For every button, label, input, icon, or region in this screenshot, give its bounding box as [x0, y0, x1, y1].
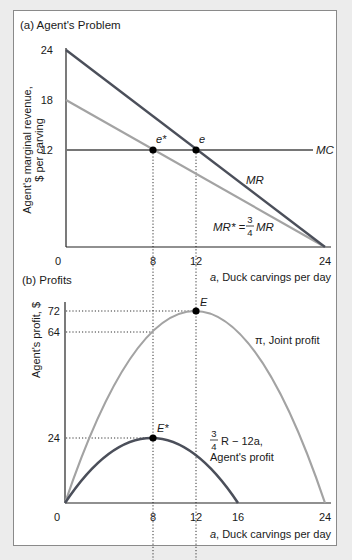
- y-tick-24: 24: [41, 44, 53, 56]
- label-mr-star: MR* = 3 4 MR: [213, 214, 274, 238]
- panel-b-ylabel: Agent's profit, $: [30, 302, 42, 378]
- svg-text:3: 3: [211, 428, 216, 439]
- y-tick-18: 18: [41, 94, 53, 106]
- svg-text:3: 3: [247, 214, 252, 225]
- svg-text:4: 4: [247, 227, 252, 238]
- chart-svg: (a) Agent's Problem Agent's marginal rev…: [0, 0, 352, 560]
- label-mr: MR: [246, 174, 264, 186]
- x-tick-12-b: 12: [190, 511, 202, 523]
- label-agent-profit: 3 4 R − 12a, Agent's profit: [210, 428, 274, 463]
- svg-text:R − 12a,: R − 12a,: [221, 435, 263, 447]
- panel-a-xlabel: a, Duck carvings per day: [210, 271, 332, 283]
- x-tick-8: 8: [150, 255, 156, 267]
- label-e: e: [199, 133, 205, 145]
- x-tick-0: 0: [55, 255, 61, 267]
- panel-b-xlabel: a, Duck carvings per day: [210, 528, 332, 540]
- point-e-star: [149, 146, 156, 153]
- label-e-star: e*: [156, 133, 167, 145]
- y-tick-12: 12: [41, 144, 53, 156]
- panel-b-title: (b) Profits: [22, 274, 72, 286]
- point-e: [192, 146, 199, 153]
- y-tick-64: 64: [48, 326, 60, 338]
- label-E-star: E*: [157, 422, 169, 434]
- svg-text:Agent's profit, $: Agent's profit, $: [30, 302, 42, 378]
- mr-star-line: [66, 100, 325, 247]
- y-tick-24-b: 24: [48, 432, 60, 444]
- point-E-star: [149, 434, 156, 441]
- label-E: E: [200, 296, 208, 308]
- x-tick-0-b: 0: [54, 511, 60, 523]
- x-tick-8-b: 8: [150, 511, 156, 523]
- point-E: [192, 307, 199, 314]
- svg-text:Agent's profit: Agent's profit: [210, 451, 274, 463]
- panel-a-title: (a) Agent's Problem: [20, 19, 121, 31]
- svg-text:MR* =: MR* =: [213, 221, 246, 233]
- x-tick-24-b: 24: [319, 511, 331, 523]
- label-joint-profit: π, Joint profit: [255, 334, 319, 346]
- x-tick-12: 12: [190, 255, 202, 267]
- svg-text:MR: MR: [256, 221, 274, 233]
- x-tick-24: 24: [319, 255, 331, 267]
- label-mc: MC: [316, 144, 335, 156]
- svg-text:Agent's marginal revenue,: Agent's marginal revenue,: [21, 86, 33, 213]
- x-tick-16-b: 16: [232, 511, 244, 523]
- y-tick-72: 72: [48, 305, 60, 317]
